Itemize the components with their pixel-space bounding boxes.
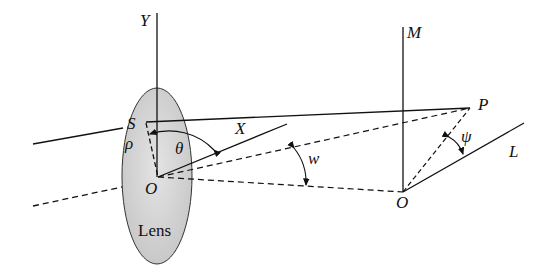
- w-arc: [294, 148, 306, 185]
- label-s: S: [127, 115, 136, 132]
- label-l: L: [509, 143, 518, 160]
- label-rho: ρ: [125, 135, 133, 152]
- optics-diagram: Y S ρ θ X O Lens w M P ψ L O: [0, 0, 548, 278]
- label-lens: Lens: [138, 222, 171, 239]
- label-m: M: [407, 24, 421, 41]
- label-p: P: [478, 96, 488, 113]
- label-y: Y: [140, 12, 149, 29]
- label-psi: ψ: [461, 128, 472, 145]
- optical-axis: [158, 177, 403, 192]
- label-o-image: O: [396, 194, 408, 211]
- label-x: X: [235, 120, 245, 137]
- incoming-ray: [33, 128, 123, 144]
- label-o-lens: O: [145, 180, 157, 197]
- chief-ray-dashed: [33, 187, 122, 206]
- label-theta: θ: [175, 140, 183, 157]
- label-w: w: [308, 150, 319, 167]
- ray-s-to-p: [146, 108, 470, 122]
